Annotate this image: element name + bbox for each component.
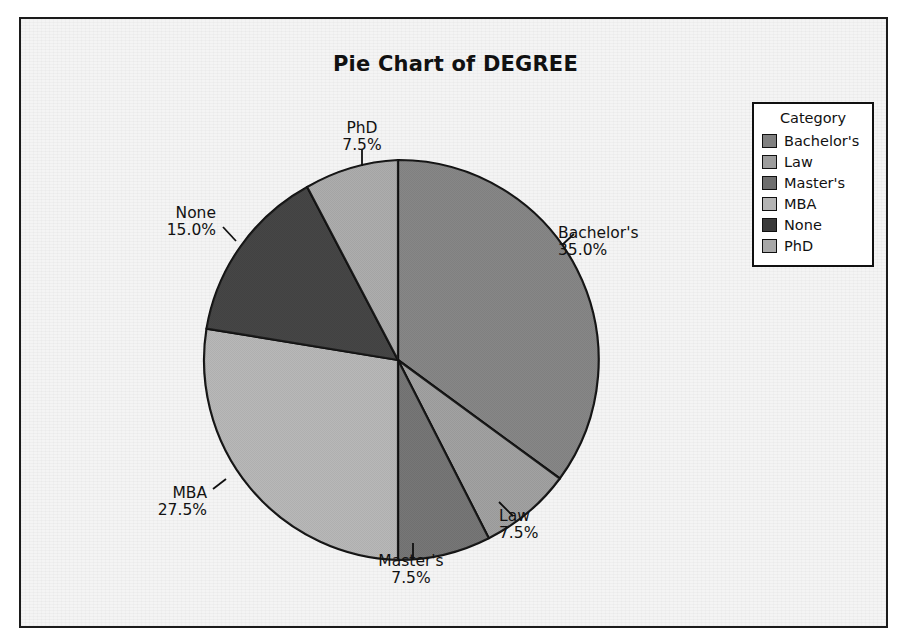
pie-label-masters: Master's 7.5% <box>351 553 471 588</box>
legend-swatch-icon <box>762 155 777 169</box>
legend-label: Master's <box>784 175 845 191</box>
legend-row-bachelors[interactable]: Bachelor's <box>762 131 864 151</box>
pie-label-masters-name: Master's <box>378 552 443 570</box>
legend-label: MBA <box>784 196 816 212</box>
legend-row-none[interactable]: None <box>762 215 864 235</box>
pie-label-phd-pct: 7.5% <box>312 137 412 154</box>
legend-swatch-icon <box>762 239 777 253</box>
pie-label-mba: MBA 27.5% <box>87 485 207 520</box>
legend-title: Category <box>762 110 864 126</box>
chart-frame: Pie Chart of DEGREE <box>19 17 888 628</box>
pie-label-none-pct: 15.0% <box>101 222 216 239</box>
leader-line-mba <box>213 479 226 489</box>
pie-label-phd: PhD 7.5% <box>312 120 412 155</box>
legend-label: PhD <box>784 238 813 254</box>
pie-label-phd-name: PhD <box>346 119 377 137</box>
legend-label: Law <box>784 154 813 170</box>
pie-label-law-name: Law <box>499 507 530 525</box>
legend-label: Bachelor's <box>784 133 859 149</box>
legend-row-phd[interactable]: PhD <box>762 236 864 256</box>
pie-label-masters-pct: 7.5% <box>351 570 471 587</box>
legend-box: Category Bachelor'sLawMaster'sMBANonePhD <box>752 102 874 267</box>
pie-label-law: Law 7.5% <box>499 508 538 543</box>
leader-line-none <box>223 227 236 241</box>
pie-label-law-pct: 7.5% <box>499 525 538 542</box>
legend-items: Bachelor'sLawMaster'sMBANonePhD <box>762 131 864 256</box>
pie-label-bachelors-pct: 35.0% <box>558 242 639 259</box>
pie-slice-mba-texture <box>204 329 398 560</box>
legend-label: None <box>784 217 822 233</box>
pie-label-mba-name: MBA <box>172 484 207 502</box>
pie-label-none-name: None <box>176 204 216 222</box>
legend-swatch-icon <box>762 176 777 190</box>
pie-label-none: None 15.0% <box>101 205 216 240</box>
pie-label-bachelors-name: Bachelor's <box>558 224 639 242</box>
pie-label-bachelors: Bachelor's 35.0% <box>558 225 639 260</box>
legend-row-mba[interactable]: MBA <box>762 194 864 214</box>
legend-swatch-icon <box>762 197 777 211</box>
legend-row-law[interactable]: Law <box>762 152 864 172</box>
screenshot-canvas: Pie Chart of DEGREE <box>0 0 910 642</box>
legend-swatch-icon <box>762 218 777 232</box>
pie-label-mba-pct: 27.5% <box>87 502 207 519</box>
legend-swatch-icon <box>762 134 777 148</box>
legend-row-masters[interactable]: Master's <box>762 173 864 193</box>
